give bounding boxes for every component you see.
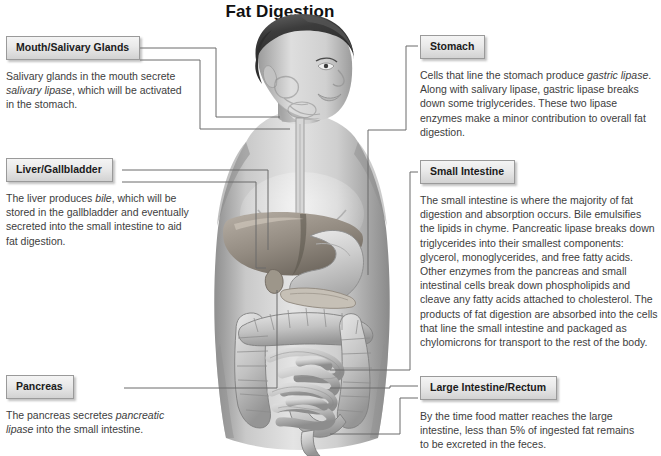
callout-liver-heading: Liver/Gallbladder bbox=[6, 158, 113, 182]
callout-liver-text-before: The liver produces bbox=[6, 192, 95, 204]
callout-liver-body: The liver produces bile, which will be s… bbox=[6, 191, 191, 248]
callout-mouth[interactable]: Mouth/Salivary Glands Salivary glands in… bbox=[6, 36, 191, 112]
callout-small-intestine[interactable]: Small Intestine The small intestine is w… bbox=[420, 160, 658, 349]
fat-digestion-figure: Fat Digestion bbox=[0, 0, 661, 456]
callout-mouth-text-before: Salivary glands in the mouth secrete bbox=[6, 70, 175, 82]
callout-stomach-body: Cells that line the stomach produce gast… bbox=[420, 68, 658, 139]
callout-small-intestine-heading: Small Intestine bbox=[420, 160, 515, 184]
callout-small-intestine-body: The small intestine is where the majorit… bbox=[420, 193, 658, 349]
callout-mouth-heading: Mouth/Salivary Glands bbox=[6, 36, 140, 60]
callout-small-intestine-text: The small intestine is where the majorit… bbox=[420, 194, 658, 348]
anatomy-illustration bbox=[150, 14, 450, 456]
callout-liver-emphasis: bile bbox=[95, 192, 111, 204]
callout-pancreas[interactable]: Pancreas The pancreas secretes pancreati… bbox=[6, 375, 191, 436]
callout-pancreas-text-after: into the small intestine. bbox=[33, 423, 143, 435]
callout-mouth-emphasis: salivary lipase bbox=[6, 84, 72, 96]
callout-large-intestine-text: By the time food matter reaches the larg… bbox=[420, 410, 634, 450]
callout-pancreas-body: The pancreas secretes pancreatic lipase … bbox=[6, 408, 191, 436]
callout-mouth-body: Salivary glands in the mouth secrete sal… bbox=[6, 69, 191, 112]
callout-liver[interactable]: Liver/Gallbladder The liver produces bil… bbox=[6, 158, 191, 248]
callout-large-intestine-body: By the time food matter reaches the larg… bbox=[420, 409, 638, 452]
callout-stomach-emphasis: gastric lipase bbox=[587, 69, 648, 81]
callout-stomach-heading: Stomach bbox=[420, 35, 485, 59]
callout-large-intestine-heading: Large Intestine/Rectum bbox=[420, 376, 557, 400]
callout-pancreas-heading: Pancreas bbox=[6, 375, 74, 399]
callout-stomach-text-before: Cells that line the stomach produce bbox=[420, 69, 587, 81]
callout-stomach[interactable]: Stomach Cells that line the stomach prod… bbox=[420, 35, 658, 139]
callout-large-intestine[interactable]: Large Intestine/Rectum By the time food … bbox=[420, 376, 638, 452]
callout-pancreas-text-before: The pancreas secretes bbox=[6, 409, 116, 421]
